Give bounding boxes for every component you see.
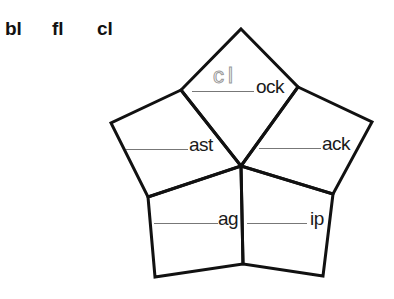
answer-blank[interactable]: [259, 148, 321, 149]
word-ending: ip: [310, 208, 324, 230]
trace-letters: cl: [213, 63, 237, 89]
answer-blank[interactable]: [126, 149, 188, 150]
section-upper-right-outline: [241, 87, 372, 194]
word-ending: ast: [189, 134, 213, 156]
word-ending: ock: [256, 76, 284, 98]
answer-blank[interactable]: [192, 91, 254, 92]
word-ending: ack: [322, 133, 350, 155]
word-ending: ag: [218, 208, 238, 230]
answer-blank[interactable]: [154, 223, 218, 224]
section-upper-left-outline: [111, 90, 241, 197]
answer-blank[interactable]: [247, 223, 307, 224]
